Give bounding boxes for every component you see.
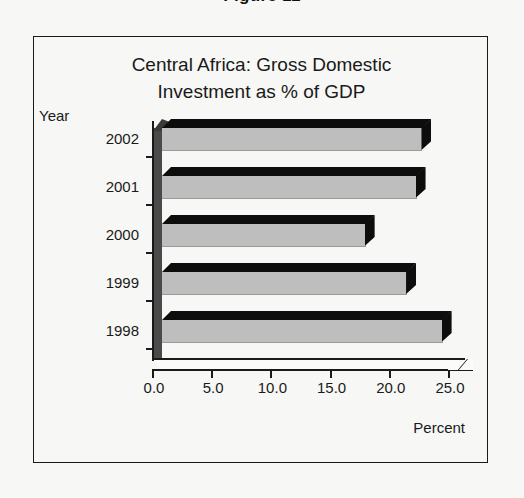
y-axis-tick (146, 348, 153, 350)
x-axis-tick (330, 371, 332, 378)
category-label: 2001 (69, 178, 153, 195)
x-axis-tick-label: 5.0 (190, 379, 236, 396)
bar-front-face (162, 176, 417, 199)
category-label: 1999 (69, 274, 153, 291)
x-axis-tick (152, 371, 154, 378)
bar[interactable]: 1999 (153, 263, 408, 289)
bar-top-face (162, 167, 426, 176)
x-axis-tick-label: 15.0 (309, 379, 355, 396)
figure-frame: Central Africa: Gross Domestic Investmen… (33, 36, 488, 463)
x-axis-title: Percent (413, 419, 465, 436)
bar-top-face (162, 311, 452, 320)
y-axis-tick (146, 300, 153, 302)
x-axis-tick (270, 371, 272, 378)
category-label: 2002 (69, 130, 153, 147)
x-axis-tick (448, 371, 450, 378)
y-axis-tick (146, 156, 153, 158)
bar-top-face (162, 119, 431, 128)
x-axis-tick (211, 371, 213, 378)
category-label: 2000 (69, 226, 153, 243)
bar[interactable]: 2001 (153, 167, 418, 193)
bar[interactable]: 1998 (153, 311, 444, 337)
x-axis-line (152, 369, 448, 371)
bar-top-face (162, 215, 375, 224)
bar[interactable]: 2000 (153, 215, 367, 241)
cut-off-heading: Figure 11 (0, 0, 524, 4)
bar[interactable]: 2002 (153, 119, 423, 145)
x-axis-tick-label: 20.0 (368, 379, 414, 396)
bar-front-face (162, 272, 407, 295)
bar-front-face (162, 320, 443, 343)
y-axis-tick (146, 204, 153, 206)
y-axis-tick (146, 252, 153, 254)
bar-top-face (162, 263, 416, 272)
x-axis-tick-label: 25.0 (427, 379, 473, 396)
bar-front-face (162, 128, 422, 151)
category-label: 1998 (69, 322, 153, 339)
x-axis-tick-label: 0.0 (131, 379, 177, 396)
bar-front-face (162, 224, 366, 247)
plot-floor-edge (153, 358, 465, 360)
x-axis-tick-label: 10.0 (249, 379, 295, 396)
plot-area: 0.05.010.015.020.025.0200220012000199919… (34, 37, 489, 464)
x-axis-tick (389, 371, 391, 378)
